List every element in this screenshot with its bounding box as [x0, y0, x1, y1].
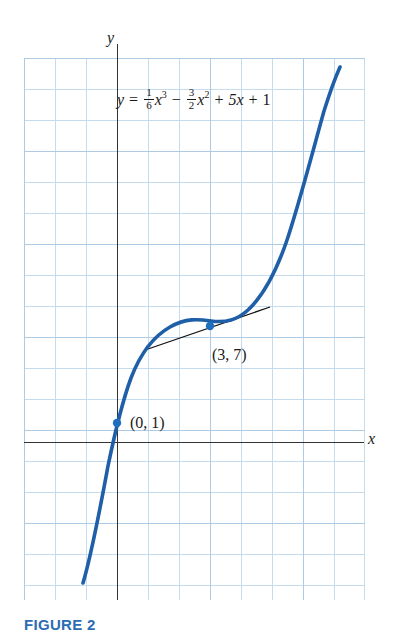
- point-marker-tangency: [206, 322, 214, 330]
- figure-caption: FIGURE 2: [24, 616, 96, 633]
- figure-container: y x (0, 1) (3, 7) y = 1 6 x 3 − 3 2 x 2 …: [0, 0, 405, 642]
- point-marker-origin: [113, 419, 121, 427]
- graph-paper-grid: [24, 58, 365, 601]
- graph-canvas: [0, 0, 405, 642]
